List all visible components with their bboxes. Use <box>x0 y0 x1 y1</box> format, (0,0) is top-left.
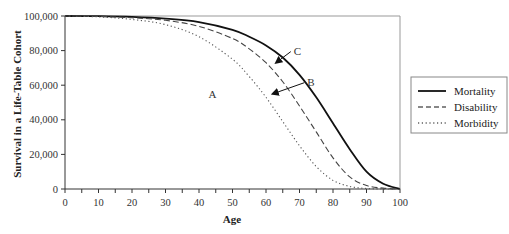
x-tick-label: 40 <box>194 197 205 208</box>
x-tick-label: 10 <box>93 197 104 208</box>
y-tick-label: 40,000 <box>29 114 58 125</box>
y-axis-title: Survival in a Life-Table Cohort <box>11 30 23 178</box>
y-tick-label: 100,000 <box>24 11 58 22</box>
legend-label-morbidity: Morbidity <box>454 117 499 129</box>
x-tick-label: 0 <box>62 197 67 208</box>
x-tick-label: 80 <box>328 197 339 208</box>
legend-label-disability: Disability <box>454 101 498 113</box>
y-tick-label: 20,000 <box>29 149 58 160</box>
y-tick-label: 60,000 <box>29 80 58 91</box>
annotation-label-b: B <box>307 76 314 88</box>
x-tick-label: 90 <box>361 197 372 208</box>
legend-label-mortality: Mortality <box>454 85 496 97</box>
x-tick-label: 70 <box>294 197 305 208</box>
x-axis-title: Age <box>223 213 241 225</box>
annotation-label-a: A <box>208 88 216 100</box>
x-tick-label: 20 <box>127 197 138 208</box>
legend: MortalityDisabilityMorbidity <box>411 77 507 133</box>
survival-chart: 020,00040,00060,00080,000100,000 0102030… <box>0 0 509 234</box>
x-tick-label: 60 <box>261 197 272 208</box>
y-tick-label: 0 <box>53 184 58 195</box>
annotation-label-c: C <box>294 45 301 57</box>
x-tick-label: 50 <box>227 197 238 208</box>
x-tick-label: 30 <box>160 197 171 208</box>
y-tick-label: 80,000 <box>29 45 58 56</box>
x-tick-label: 100 <box>392 197 408 208</box>
